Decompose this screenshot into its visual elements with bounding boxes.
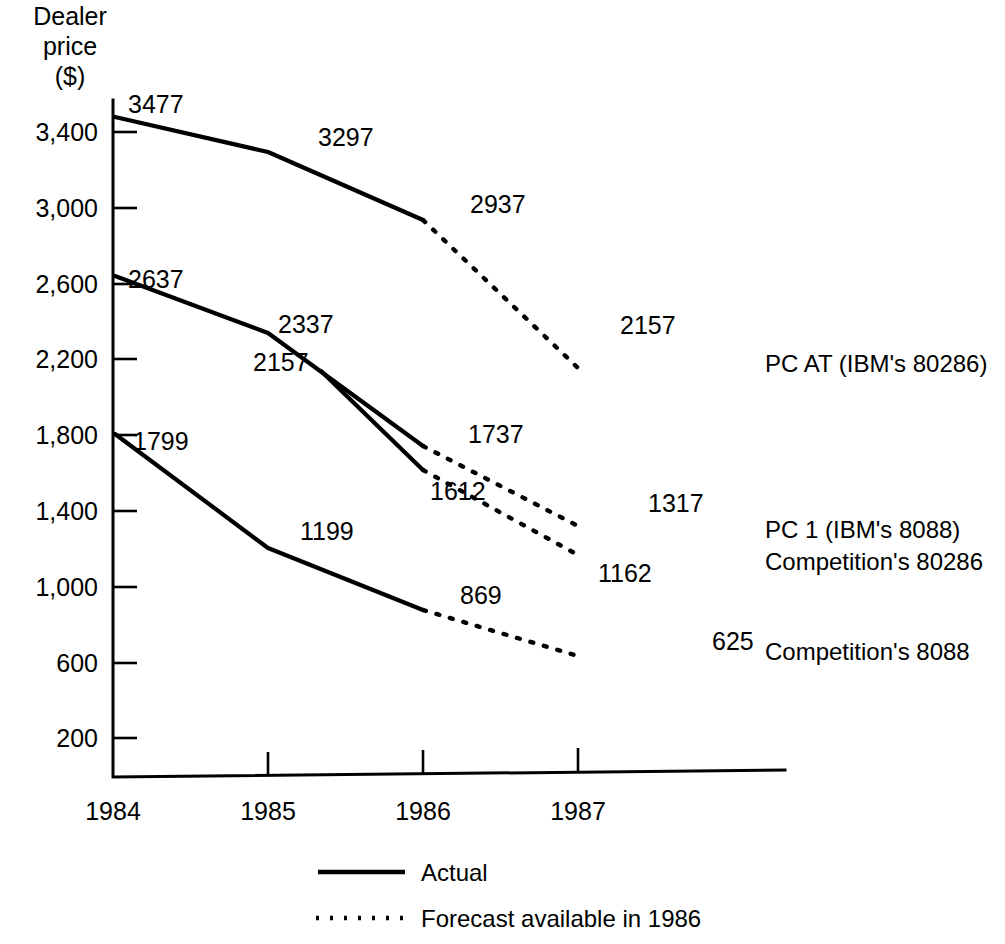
- chart-svg: Dealer price ($) 3,400 3,000 2,600 2,200…: [0, 0, 1005, 944]
- x-axis-tick-labels: 1984 1985 1986 1987: [85, 797, 606, 825]
- x-axis-ticks: [268, 748, 578, 775]
- series-line-actual: [321, 371, 423, 470]
- data-label: 869: [460, 581, 502, 609]
- series-name-annotations: PC AT (IBM's 80286) PC 1 (IBM's 8088) Co…: [765, 350, 987, 665]
- y-axis-title-line-1: Dealer: [33, 2, 107, 30]
- data-label: 3477: [128, 90, 184, 118]
- data-label: 2157: [620, 311, 676, 339]
- y-axis-title-line-3: ($): [55, 62, 86, 90]
- x-tick-label: 1984: [85, 797, 141, 825]
- y-tick-label: 1,800: [35, 421, 98, 449]
- data-label: 2337: [278, 310, 334, 338]
- series-name-pc-1: PC 1 (IBM's 8088): [765, 516, 960, 543]
- data-label: 1799: [133, 427, 189, 455]
- data-label: 1162: [598, 559, 652, 587]
- data-label: 3297: [318, 123, 374, 151]
- y-tick-label: 2,600: [35, 270, 98, 298]
- series-pc-at-ibm-80286: [115, 117, 578, 368]
- series-pc-1-ibm-8088: [115, 276, 578, 526]
- data-label: 625: [712, 627, 754, 655]
- y-tick-label: 1,000: [35, 573, 98, 601]
- axis-lines: [113, 100, 785, 777]
- y-tick-label: 3,000: [35, 194, 98, 222]
- series-line-actual: [115, 117, 423, 220]
- data-label: 2937: [470, 190, 526, 218]
- y-tick-label: 2,200: [35, 345, 98, 373]
- series-line-forecast: [423, 220, 578, 368]
- series-name-competition-80286: Competition's 80286: [765, 548, 983, 575]
- chart-legend: Actual Forecast available in 1986: [316, 859, 701, 932]
- series-line-forecast: [423, 610, 578, 656]
- y-tick-label: 200: [56, 724, 98, 752]
- data-label: 1737: [468, 420, 524, 448]
- y-tick-label: 3,400: [35, 118, 98, 146]
- data-label: 2637: [128, 265, 184, 293]
- x-tick-label: 1986: [395, 797, 451, 825]
- series-name-pc-at: PC AT (IBM's 80286): [765, 350, 987, 377]
- x-tick-label: 1985: [240, 797, 296, 825]
- series-competitions-8088: [115, 434, 578, 656]
- y-axis-tick-labels: 3,400 3,000 2,600 2,200 1,800 1,400 1,00…: [35, 118, 98, 752]
- series-line-actual: [115, 434, 423, 610]
- legend-label-actual: Actual: [421, 859, 488, 886]
- y-axis-title-line-2: price: [43, 32, 97, 60]
- y-tick-label: 1,400: [35, 497, 98, 525]
- data-label: 1317: [648, 489, 704, 517]
- series-name-competition-8088: Competition's 8088: [765, 638, 970, 665]
- x-tick-label: 1987: [550, 797, 606, 825]
- data-point-labels: 3477 3297 2937 2157 2637 2337 1737 1317 …: [128, 90, 754, 655]
- legend-label-forecast: Forecast available in 1986: [421, 905, 701, 932]
- price-trend-chart: Dealer price ($) 3,400 3,000 2,600 2,200…: [0, 0, 1005, 944]
- data-label: 2157: [253, 348, 309, 376]
- y-tick-label: 600: [56, 649, 98, 677]
- data-label: 1199: [300, 517, 354, 545]
- data-label: 1612: [430, 477, 486, 505]
